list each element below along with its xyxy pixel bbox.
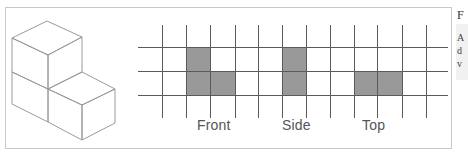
side-view-label: Side: [282, 117, 311, 133]
isometric-cubes: [12, 21, 115, 140]
side-panel: F A d v: [456, 0, 468, 159]
side-panel-line: d: [457, 45, 462, 56]
side-panel-line: A: [457, 32, 464, 43]
front-view-label: Front: [197, 117, 231, 133]
projection-grid: [138, 25, 448, 118]
top-view-label: Top: [362, 117, 385, 133]
figure-art: [0, 0, 468, 159]
side-panel-heading: F: [457, 8, 464, 23]
side-panel-line: v: [457, 58, 462, 69]
